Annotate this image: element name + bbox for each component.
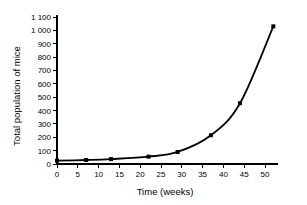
- y-axis-ticks: 01002003004005006007008009001 0001 100: [31, 13, 57, 169]
- x-tick-label: 15: [115, 170, 124, 179]
- x-tick-label: 0: [55, 170, 60, 179]
- data-point-marker: [55, 159, 59, 163]
- data-point-marker: [176, 150, 180, 154]
- y-tick-label: 600: [38, 80, 52, 89]
- data-point-marker: [209, 133, 213, 137]
- population-growth-line-chart: Total population of mice Time (weeks) 01…: [0, 0, 307, 205]
- chart-container: Total population of mice Time (weeks) 01…: [0, 0, 307, 205]
- data-point-marker: [84, 158, 88, 162]
- y-tick-label: 800: [38, 53, 52, 62]
- y-tick-label: 100: [38, 147, 52, 156]
- y-tick-label: 200: [38, 133, 52, 142]
- x-tick-label: 40: [219, 170, 228, 179]
- x-tick-label: 45: [240, 170, 249, 179]
- x-tick-label: 50: [261, 170, 270, 179]
- data-series-group: [55, 24, 275, 162]
- y-tick-label: 400: [38, 107, 52, 116]
- x-tick-label: 5: [76, 170, 81, 179]
- x-tick-label: 35: [198, 170, 207, 179]
- y-tick-label: 1 100: [31, 13, 52, 22]
- y-axis-title: Total population of mice: [11, 46, 22, 146]
- data-point-marker: [147, 155, 151, 159]
- data-point-marker: [109, 157, 113, 161]
- x-tick-label: 30: [177, 170, 186, 179]
- series-line: [57, 26, 273, 160]
- data-point-marker: [271, 24, 275, 28]
- x-tick-label: 25: [157, 170, 166, 179]
- y-tick-label: 900: [38, 40, 52, 49]
- y-tick-label: 500: [38, 93, 52, 102]
- x-tick-label: 10: [94, 170, 103, 179]
- y-tick-label: 700: [38, 66, 52, 75]
- data-point-marker: [238, 101, 242, 105]
- y-tick-label: 0: [47, 160, 52, 169]
- x-axis-ticks: 05101520253035404550: [55, 164, 270, 179]
- x-axis-title: Time (weeks): [137, 186, 194, 197]
- x-tick-label: 20: [136, 170, 145, 179]
- y-tick-label: 1 000: [31, 26, 52, 35]
- y-tick-label: 300: [38, 120, 52, 129]
